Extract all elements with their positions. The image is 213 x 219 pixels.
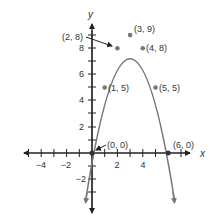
x-tick-label: 2 xyxy=(114,160,119,170)
x-tick-label: −2 xyxy=(61,160,71,170)
x-axis: −4 −2 2 4 x xyxy=(24,148,206,170)
parabola-chart: −4 −2 2 4 x 8 6 4 2 −2 y xyxy=(0,0,213,219)
point-label: (6, 0) xyxy=(173,140,194,150)
point-label: (2, 8) xyxy=(62,32,83,42)
point-label: (0, 0) xyxy=(107,140,128,150)
y-tick-label: 6 xyxy=(79,69,84,79)
parabola-curve xyxy=(86,59,175,201)
y-tick-label: 8 xyxy=(79,43,84,53)
point-label: (4, 8) xyxy=(146,43,167,53)
y-tick-label: −2 xyxy=(76,174,86,184)
y-axis-label: y xyxy=(87,9,94,20)
pointer-arrow xyxy=(86,37,112,46)
y-tick-label: 4 xyxy=(79,95,84,105)
point-label: (1, 5) xyxy=(108,83,129,93)
x-tick-label: 4 xyxy=(140,160,145,170)
point-label: (3, 9) xyxy=(134,24,155,34)
y-tick-label: 2 xyxy=(79,122,84,132)
x-axis-label: x xyxy=(199,148,206,159)
x-tick-label: −4 xyxy=(36,160,46,170)
point-label: (5, 5) xyxy=(159,83,180,93)
